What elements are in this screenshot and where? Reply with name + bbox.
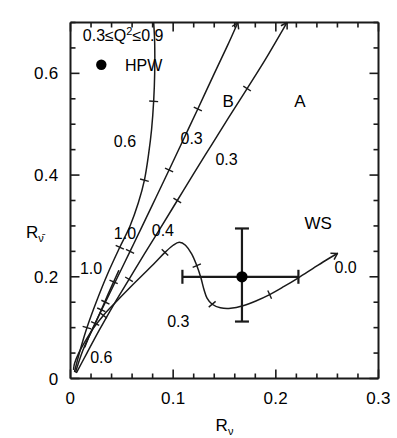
curve-param-label: 0.6 [114,134,136,150]
x-tick-label: 0.1 [161,389,186,406]
curve-curve-C-steep [75,23,155,372]
x-tick-label: 0.2 [264,389,289,406]
curve-param-label: 1.0 [114,226,136,242]
curve-param-label: 0.6 [90,350,112,366]
y-axis-title: Rν̄ [26,223,44,243]
curve-param-label: 0.3 [215,152,237,168]
hpw-data-point-marker[interactable] [236,271,247,282]
y-tick-label: 0 [49,370,59,387]
curve-B-end-arrow [238,23,239,30]
y-tick-label: 0.4 [34,167,59,184]
curve-param-label: 0.4 [152,223,174,239]
annotation-curve-label-A: A [294,93,305,110]
y-tick-label: 0.6 [34,65,59,82]
y-tick-label: 0.2 [34,268,59,285]
x-tick-label: 0.3 [366,389,391,406]
x-tick-label: 0 [66,389,76,406]
annotation-curve-label-WS: WS [305,215,332,232]
annotation-kinematic-range: 0.3≤Q2≤0.9 [83,26,164,44]
curve-param-tick [149,101,158,102]
curve-param-label: 0.3 [181,131,203,147]
curve-param-label: 1.0 [80,261,102,277]
figure-canvas: 00.10.20.300.20.40.6RνRν̄0.61.00.40.30.3… [0,0,397,438]
curve-param-tick [243,86,251,91]
plot-svg [0,0,397,438]
curve-param-tick [173,198,181,203]
curve-param-label: 0.0 [335,260,357,276]
hpw-legend-marker-dot [96,60,106,70]
curve-param-tick [125,277,133,282]
curve-param-label: 0.3 [167,314,189,330]
x-axis-title: Rν [216,416,234,436]
annotation-hpw-legend: HPW [125,58,162,74]
annotation-curve-label-B: B [222,93,233,110]
